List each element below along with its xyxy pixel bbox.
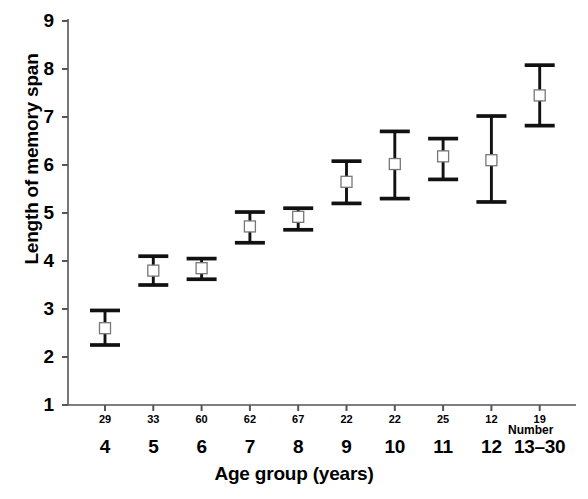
mean-marker-square — [438, 151, 449, 162]
mean-marker-square — [341, 176, 352, 187]
chart-plot-area — [0, 0, 588, 499]
data-point — [525, 65, 555, 125]
axes-layer — [62, 19, 576, 411]
memory-span-chart: Length of memory span Age group (years) … — [0, 0, 588, 499]
data-series-layer — [90, 65, 555, 345]
mean-marker-square — [486, 155, 497, 166]
mean-marker-square — [100, 323, 111, 334]
data-point — [283, 208, 313, 230]
mean-marker-square — [244, 221, 255, 232]
data-point — [428, 139, 458, 180]
data-point — [138, 256, 168, 285]
mean-marker-square — [389, 159, 400, 170]
data-point — [187, 259, 217, 280]
data-point — [380, 131, 410, 198]
mean-marker-square — [293, 211, 304, 222]
mean-marker-square — [534, 90, 545, 101]
data-point — [90, 310, 120, 345]
data-point — [235, 212, 265, 243]
mean-marker-square — [148, 265, 159, 276]
data-point — [332, 161, 362, 203]
data-point — [476, 116, 506, 202]
mean-marker-square — [196, 263, 207, 274]
